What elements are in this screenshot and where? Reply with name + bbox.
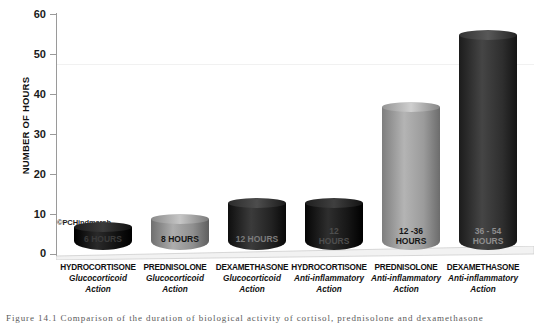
bar-body bbox=[305, 203, 363, 250]
bar-hydrocortisone-glucocorticoid[interactable]: 6 HOURS bbox=[74, 222, 132, 250]
bar-prednisolone-antiinflammatory[interactable]: 12 -36 HOURS bbox=[382, 102, 440, 250]
category-drug-name: DEXAMETHASONE bbox=[435, 262, 531, 273]
figure-caption: Figure 14.1 Comparison of the duration o… bbox=[6, 313, 539, 323]
bar-dexamethasone-antiinflammatory[interactable]: 36 - 54 HOURS bbox=[459, 30, 517, 250]
category-label-dexamethasone-antiinflammatory: DEXAMETHASONE Anti-inflammatory Action bbox=[435, 262, 531, 295]
y-tick-label-60: 60 bbox=[20, 8, 46, 20]
bars-group: 6 HOURS 8 HOURS 12 HOURS 12 HOURS 12 -36 bbox=[56, 10, 534, 258]
bar-dexamethasone-glucocorticoid[interactable]: 12 HOURS bbox=[228, 198, 286, 250]
y-tick-label-50: 50 bbox=[20, 48, 46, 60]
bar-cap bbox=[151, 214, 209, 224]
x-axis-category-labels: HYDROCORTISONE Glucocorticoid Action PRE… bbox=[48, 262, 534, 308]
bar-cap bbox=[305, 198, 363, 208]
bar-hydrocortisone-antiinflammatory[interactable]: 12 HOURS bbox=[305, 198, 363, 250]
bar-body bbox=[382, 107, 440, 250]
bar-body bbox=[459, 35, 517, 250]
bar-cap bbox=[228, 198, 286, 208]
chart-container: NUMBER OF HOURS 60 50 40 30 20 10 0 ©PCH… bbox=[0, 0, 539, 324]
y-tick-label-30: 30 bbox=[20, 128, 46, 140]
y-tick-label-40: 40 bbox=[20, 88, 46, 100]
bar-prednisolone-glucocorticoid[interactable]: 8 HOURS bbox=[151, 214, 209, 250]
bar-cap bbox=[74, 222, 132, 232]
bar-body bbox=[228, 203, 286, 250]
y-tick-label-10: 10 bbox=[20, 208, 46, 220]
category-action-line1: Anti-inflammatory bbox=[435, 273, 531, 284]
bar-cap bbox=[382, 102, 440, 112]
y-axis-title: NUMBER OF HOURS bbox=[20, 41, 31, 211]
y-tick-label-20: 20 bbox=[20, 168, 46, 180]
bar-cap bbox=[459, 30, 517, 40]
y-tick-label-0: 0 bbox=[20, 247, 46, 259]
category-action-line2: Action bbox=[435, 284, 531, 295]
